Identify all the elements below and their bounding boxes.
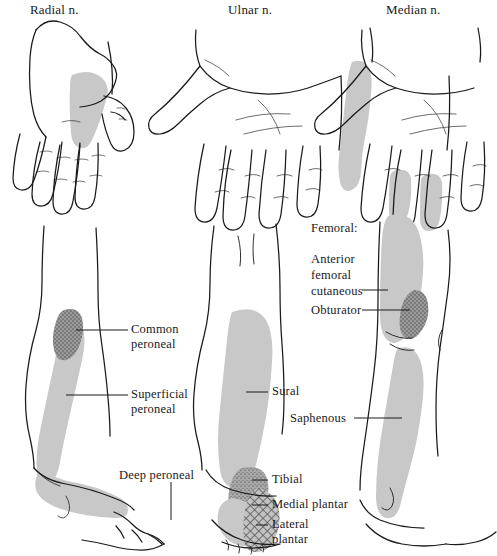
label-superficial-peroneal-line1: Superficial [131,387,188,402]
anatomy-artwork [0,0,497,556]
label-obturator: Obturator [311,303,361,318]
label-lateral-plantar-line2: plantar [272,532,308,547]
label-saphenous: Saphenous [290,411,346,426]
nerve-distribution-figure: Radial n. Ulnar n. Median n. Common pero… [0,0,497,556]
label-medial-plantar: Medial plantar [272,497,348,512]
label-anterior-femoral-cutaneous-line1: Anterior [311,252,355,267]
label-anterior-femoral-cutaneous-line3: cutaneous [311,284,363,299]
label-ulnar-nerve: Ulnar n. [228,3,272,18]
label-sural: Sural [272,384,299,399]
label-superficial-peroneal-line2: peroneal [131,402,176,417]
label-deep-peroneal: Deep peroneal [119,468,194,483]
leg-right [360,215,496,546]
hand-radial [13,21,134,214]
label-median-nerve: Median n. [386,3,441,18]
label-lateral-plantar-line1: Lateral [272,517,309,532]
label-common-peroneal-line2: peroneal [131,337,176,352]
label-common-peroneal-line1: Common [131,322,179,337]
label-femoral-heading: Femoral: [311,221,358,236]
label-tibial: Tibial [272,472,303,487]
leg-middle [194,224,285,554]
label-anterior-femoral-cutaneous-line2: femoral [311,268,351,283]
label-radial-nerve: Radial n. [30,3,79,18]
